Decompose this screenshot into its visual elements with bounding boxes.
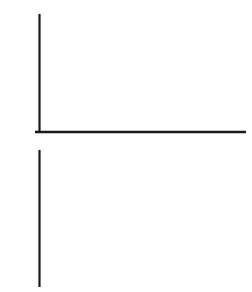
figure-canvas <box>0 0 252 292</box>
energy-level-and-transmission-figure <box>0 0 252 292</box>
figure-background <box>0 0 252 292</box>
